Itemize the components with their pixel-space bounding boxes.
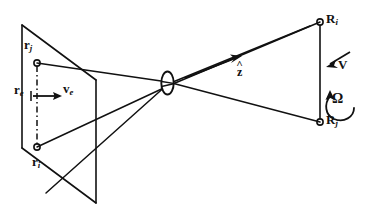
zhat-arrow-shaft — [185, 58, 236, 78]
label-V-symbol: V — [338, 57, 347, 72]
ray-rj-to-lens — [37, 63, 168, 82]
ray-lower-left-through-lens — [46, 84, 168, 193]
label-z-hat: ^z — [237, 66, 242, 78]
diagram-canvas — [0, 0, 379, 220]
label-ri-subscript: i — [38, 160, 40, 170]
label-re-subscript: e — [20, 88, 24, 98]
label-Rj-symbol: R — [326, 112, 335, 127]
label-Rj: Rj — [326, 113, 338, 128]
ray-lens-to-Rj — [168, 82, 320, 122]
z-hat-accent: ^ — [236, 59, 243, 70]
label-ri: ri — [32, 155, 40, 170]
label-Ri-subscript: i — [335, 17, 337, 27]
label-V: V — [338, 58, 347, 71]
ray-bundle — [37, 22, 320, 193]
label-re: re — [14, 83, 24, 98]
object-plane-outline — [22, 25, 96, 203]
label-rj-subscript: j — [30, 43, 32, 53]
label-ve-subscript: e — [70, 87, 74, 97]
label-Rj-subscript: j — [335, 118, 337, 128]
object-plane-edge-top — [22, 25, 96, 80]
label-rj: rj — [24, 38, 32, 53]
label-Ri: Ri — [326, 12, 338, 27]
label-omega-symbol: Ω — [332, 91, 343, 106]
label-omega: Ω — [332, 92, 343, 106]
label-ve: ve — [63, 82, 73, 97]
figure-root: rj re ve ri ^z Ri Rj V Ω — [0, 0, 379, 220]
label-Ri-symbol: R — [326, 11, 335, 26]
